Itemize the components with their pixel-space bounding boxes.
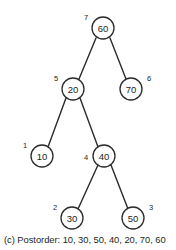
tree-node-order-label-20: 5 [54, 74, 58, 83]
tree-node-order-label-60: 7 [84, 13, 88, 22]
tree-node-value-50: 50 [128, 213, 139, 224]
tree-node-value-60: 60 [98, 23, 109, 34]
tree-edges-group [48, 38, 128, 209]
tree-node-value-20: 20 [68, 84, 79, 95]
tree-node-30[interactable]: 30 [61, 207, 83, 229]
binary-tree-diagram: 60207010403050 7561423 [0, 0, 176, 232]
tree-edge-n60-n20 [79, 38, 96, 79]
tree-nodes-group: 60207010403050 [31, 17, 144, 229]
figure-caption: (c) Postorder: 10, 30, 50, 40, 20, 70, 6… [4, 234, 176, 245]
tree-node-value-70: 70 [126, 84, 137, 95]
tree-node-order-label-40: 4 [84, 153, 88, 162]
tree-node-40[interactable]: 40 [93, 145, 115, 167]
tree-node-20[interactable]: 20 [62, 78, 84, 100]
tree-edge-n20-n10 [48, 98, 66, 147]
tree-order-labels-group: 7561423 [23, 13, 153, 212]
tree-edge-n60-n70 [110, 38, 126, 79]
tree-node-value-30: 30 [67, 213, 78, 224]
tree-edge-n40-n50 [111, 165, 128, 209]
tree-node-order-label-30: 2 [53, 203, 57, 212]
tree-node-order-label-10: 1 [23, 141, 27, 150]
tree-node-50[interactable]: 50 [122, 207, 144, 229]
tree-node-value-10: 10 [37, 151, 48, 162]
tree-node-60[interactable]: 60 [92, 17, 114, 39]
tree-edge-n40-n30 [78, 165, 98, 209]
binary-tree-figure: 60207010403050 7561423 (c) Postorder: 10… [0, 0, 176, 250]
tree-node-order-label-50: 3 [149, 203, 153, 212]
tree-node-value-40: 40 [99, 151, 110, 162]
tree-node-10[interactable]: 10 [31, 145, 53, 167]
tree-node-order-label-70: 6 [147, 74, 151, 83]
tree-node-70[interactable]: 70 [120, 78, 142, 100]
tree-edge-n20-n40 [80, 98, 98, 147]
